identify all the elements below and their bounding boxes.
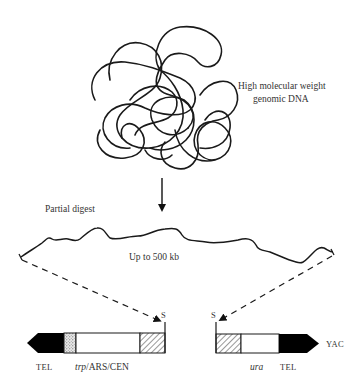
ars-cen-label: /ARS/CEN (86, 362, 129, 372)
left-marker-label: trp/ARS/CEN (75, 362, 129, 372)
right-tel-label: TEL (280, 362, 296, 372)
left-hatched-segment (140, 333, 165, 353)
left-ligation-arrow (22, 260, 158, 320)
genomic-dna-label-line2: genomic DNA (253, 94, 309, 104)
left-yac-arm: S (27, 310, 166, 353)
right-ligation-arrow (222, 256, 332, 319)
left-tel-label: TEL (36, 362, 52, 372)
left-white-segment (76, 333, 140, 353)
fragment-size-label: Up to 500 kb (129, 252, 179, 262)
partial-digest-label: Partial digest (45, 204, 95, 214)
right-yac-arm: S (211, 310, 319, 353)
left-stippled-segment (64, 333, 76, 353)
yac-label: YAC (326, 339, 344, 349)
trp-label: trp (75, 362, 86, 372)
genomic-dna-label-line1: High molecular weight (238, 81, 326, 91)
ura-label: ura (250, 362, 263, 372)
right-tel-segment (279, 334, 319, 353)
right-hatched-segment (216, 334, 241, 353)
left-tel-segment (27, 333, 64, 353)
right-white-segment (241, 334, 279, 353)
genomic-dna-tangle (92, 27, 238, 169)
yac-cloning-diagram: High molecular weight genomic DNA Partia… (0, 0, 364, 388)
left-site-label: S (161, 310, 166, 320)
right-site-label: S (211, 310, 216, 320)
